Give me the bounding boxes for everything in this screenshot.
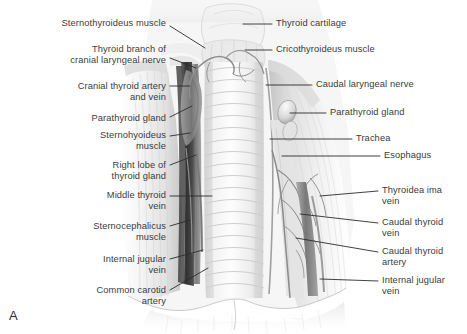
label-sternothyroideus-muscle: Sternothyroideus muscle [18,18,166,29]
label-internal-jugular-vein-left: Internal jugular vein [18,254,166,277]
label-cricothyroideus-muscle: Cricothyroideus muscle [276,44,375,55]
label-sternohyoideus-muscle: Sternohyoideus muscle [18,130,166,153]
trachea [204,62,264,298]
label-middle-thyroid-vein: Middle thyroid vein [18,190,166,213]
label-internal-jugular-vein-right: Internal jugular vein [382,275,445,298]
label-trachea: Trachea [356,133,390,144]
label-thyroidea-ima-vein: Thyroidea ima vein [382,185,442,208]
label-sternocephalicus-muscle: Sternocephalicus muscle [18,221,166,244]
label-caudal-thyroid-artery: Caudal thyroid artery [382,246,443,269]
label-parathyroid-gland-left: Parathyroid gland [18,113,166,124]
label-esophagus: Esophagus [384,150,431,161]
label-thyroid-cartilage: Thyroid cartilage [276,18,346,29]
label-caudal-thyroid-vein: Caudal thyroid vein [382,217,443,240]
label-right-lobe-of-thyroid-gland: Right lobe of thyroid gland [18,160,166,183]
label-thyroid-branch-cranial-laryngeal-nerve: Thyroid branch of cranial laryngeal nerv… [18,44,166,67]
figure-letter: A [9,308,18,323]
anatomical-figure: Sternothyroideus muscleThyroid branch of… [0,0,467,334]
label-parathyroid-gland-right: Parathyroid gland [330,107,404,118]
label-common-carotid-artery: Common carotid artery [18,285,166,308]
label-cranial-thyroid-artery-and-vein: Cranial thyroid artery and vein [18,81,166,104]
label-caudal-laryngeal-nerve: Caudal laryngeal nerve [316,79,414,90]
